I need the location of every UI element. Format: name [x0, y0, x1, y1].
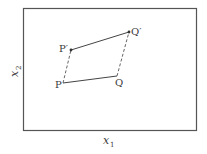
- x-axis-label-main: x: [103, 134, 110, 147]
- segment-pprime-qprime: [71, 32, 129, 50]
- point-pprime-marker: [70, 49, 73, 52]
- dashed-q-qprime: [117, 32, 129, 76]
- y-axis-label-main: x: [8, 70, 21, 77]
- x-axis-label-sub: 1: [110, 141, 114, 149]
- label-p: P: [55, 79, 62, 90]
- y-axis-label-sub: 2: [15, 66, 23, 70]
- plot-frame: [24, 9, 197, 131]
- dashed-p-pprime: [63, 50, 71, 83]
- y-axis-label: x 2: [8, 66, 23, 77]
- label-pprime: P′: [59, 43, 69, 54]
- point-qprime-marker: [128, 31, 131, 34]
- deformation-diagram: P Q P′ Q′ x 1 x 2: [0, 0, 207, 154]
- label-q: Q: [115, 77, 123, 88]
- segment-pq: [63, 76, 117, 83]
- label-qprime: Q′: [131, 26, 142, 37]
- x-axis-label: x 1: [103, 134, 114, 149]
